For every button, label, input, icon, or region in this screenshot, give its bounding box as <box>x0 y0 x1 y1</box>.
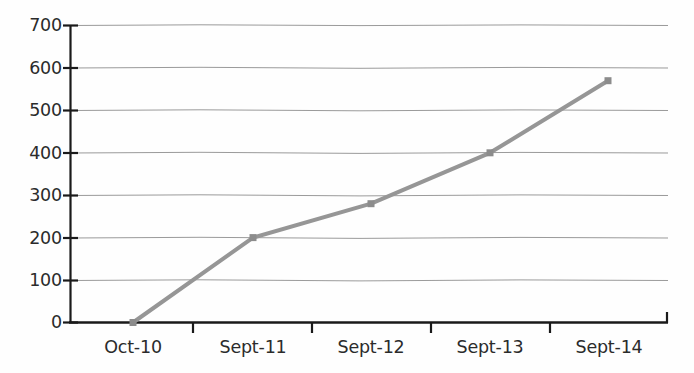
x-tick-label-sept-13: Sept-13 <box>456 339 523 357</box>
x-tick-label-oct-10: Oct-10 <box>104 339 162 357</box>
x-tick-label-sept-14: Sept-14 <box>575 339 642 357</box>
x-axis-labels: Oct-10 Sept-11 Sept-12 Sept-13 Sept-14 <box>0 0 694 373</box>
line-chart: 700 600 500 400 300 200 100 0 Oct-10 Sep… <box>0 0 694 373</box>
x-tick-label-sept-12: Sept-12 <box>337 339 404 357</box>
x-tick-label-sept-11: Sept-11 <box>219 339 286 357</box>
